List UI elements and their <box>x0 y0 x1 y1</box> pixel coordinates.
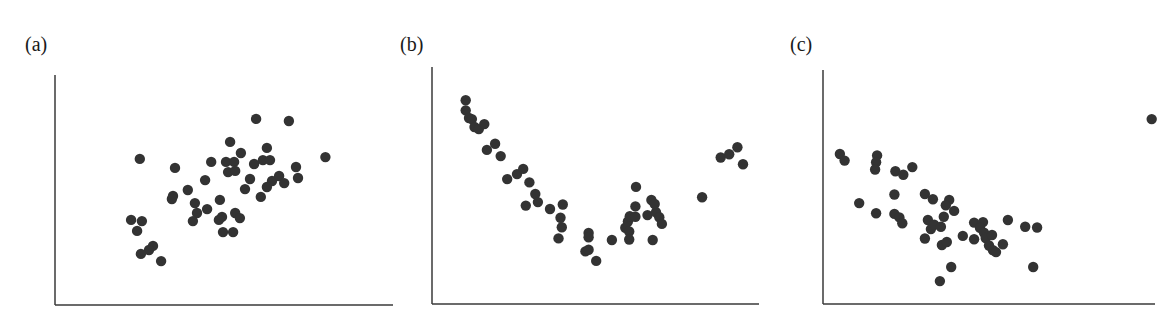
data-point <box>524 177 534 187</box>
data-point <box>245 174 255 184</box>
data-point <box>490 139 500 149</box>
data-point <box>202 204 212 214</box>
data-point <box>969 234 979 244</box>
data-point <box>1003 215 1013 225</box>
data-point <box>262 182 272 192</box>
data-point <box>907 162 917 172</box>
data-point <box>898 170 908 180</box>
data-point <box>839 155 849 165</box>
data-point <box>206 157 216 167</box>
data-point <box>218 227 228 237</box>
data-point <box>214 215 224 225</box>
scatter-plot-b <box>432 67 759 304</box>
data-point <box>188 216 198 226</box>
data-point <box>1147 114 1157 124</box>
data-point <box>256 192 266 202</box>
data-point <box>987 230 997 240</box>
data-point <box>648 235 658 245</box>
data-point <box>156 256 166 266</box>
data-point <box>225 137 235 147</box>
data-point <box>942 237 952 247</box>
data-point <box>496 151 506 161</box>
data-point <box>697 192 707 202</box>
data-point <box>998 239 1008 249</box>
data-point <box>946 262 956 272</box>
data-point <box>928 194 938 204</box>
data-point <box>291 162 301 172</box>
data-point <box>135 154 145 164</box>
data-point <box>558 199 568 209</box>
scatter-plot-c <box>823 70 1157 304</box>
data-point <box>630 201 640 211</box>
data-point <box>461 95 471 105</box>
data-point <box>958 231 968 241</box>
data-point <box>251 114 261 124</box>
data-point <box>650 199 660 209</box>
data-point <box>545 204 555 214</box>
data-point <box>167 194 177 204</box>
data-point <box>479 119 489 129</box>
data-point <box>235 213 245 223</box>
data-point <box>657 219 667 229</box>
data-point <box>502 174 512 184</box>
data-point <box>724 149 734 159</box>
data-point <box>521 200 531 210</box>
data-point <box>126 215 136 225</box>
scatter-plots <box>0 0 1175 334</box>
data-point <box>293 173 303 183</box>
data-point <box>591 256 601 266</box>
data-point <box>583 245 593 255</box>
data-point <box>1020 222 1030 232</box>
data-point <box>555 213 565 223</box>
data-point <box>240 184 250 194</box>
data-point <box>897 218 907 228</box>
data-point <box>935 276 945 286</box>
data-point <box>557 222 567 232</box>
data-point <box>170 163 180 173</box>
data-point <box>320 152 330 162</box>
data-point <box>265 155 275 165</box>
data-point <box>132 226 142 236</box>
data-point <box>583 232 593 242</box>
data-point <box>871 208 881 218</box>
data-point <box>936 222 946 232</box>
data-point <box>607 235 617 245</box>
data-point <box>190 198 200 208</box>
data-point <box>631 182 641 192</box>
data-point <box>236 148 246 158</box>
data-point <box>732 142 742 152</box>
data-point <box>939 212 949 222</box>
data-point <box>854 198 864 208</box>
data-point <box>230 166 240 176</box>
data-point <box>284 116 294 126</box>
data-point <box>262 143 272 153</box>
scatter-plot-a <box>55 75 393 305</box>
data-point <box>870 164 880 174</box>
data-point <box>137 216 147 226</box>
data-point <box>553 233 563 243</box>
data-point <box>889 189 899 199</box>
data-point <box>229 157 239 167</box>
data-point <box>136 249 146 259</box>
data-point <box>183 185 193 195</box>
data-point <box>533 197 543 207</box>
data-point <box>738 159 748 169</box>
data-point <box>624 234 634 244</box>
data-point <box>630 212 640 222</box>
data-point <box>949 206 959 216</box>
data-point <box>279 178 289 188</box>
data-point <box>1032 222 1042 232</box>
data-point <box>200 175 210 185</box>
data-point <box>228 227 238 237</box>
data-point <box>518 164 528 174</box>
data-point <box>1028 262 1038 272</box>
data-point <box>991 247 1001 257</box>
data-point <box>920 233 930 243</box>
data-point <box>215 195 225 205</box>
